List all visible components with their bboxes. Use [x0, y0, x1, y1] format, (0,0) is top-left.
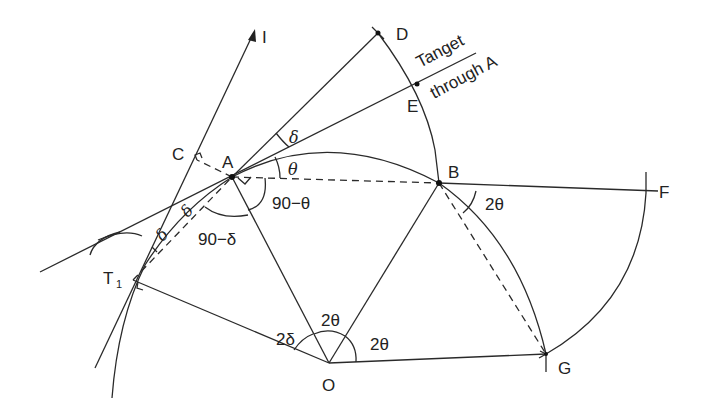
label-f: F [659, 183, 669, 202]
angle-arc-delta-top [276, 133, 289, 147]
label-2theta-b: 2θ [485, 195, 504, 214]
label-2theta-o: 2θ [321, 311, 340, 330]
line-a-to-d [232, 33, 378, 177]
arc-f-g [546, 193, 646, 354]
line-t1-to-i [95, 34, 253, 368]
label-d: D [396, 25, 408, 44]
radius-o-t1 [133, 280, 329, 363]
angle-arc-2theta-b [463, 191, 476, 213]
curve-arc [112, 152, 546, 398]
geometry-diagram: A B C D E F G O I T 1 Tanget through A δ… [0, 0, 703, 407]
label-delta-left2: δ [177, 201, 198, 221]
chord-t1-a [133, 177, 232, 280]
tangent-through-a [40, 53, 476, 272]
angle-arc-90-theta [248, 178, 265, 210]
label-c: C [172, 145, 184, 164]
tangent-label-line1: Tanget [413, 31, 467, 72]
label-t1-subscript: 1 [116, 278, 122, 290]
radius-o-g [329, 354, 546, 363]
construction-arc-1 [90, 232, 120, 255]
angle-arc-2theta-o [314, 331, 345, 336]
right-angle-c [195, 153, 202, 160]
chord-a-b [232, 177, 439, 183]
label-delta-top: δ [289, 128, 299, 147]
angle-arc-2delta-o [294, 334, 313, 350]
label-g: G [558, 359, 571, 378]
point-e [415, 82, 420, 87]
label-o: O [322, 376, 335, 395]
label-e: E [407, 97, 418, 116]
angle-arc-90-delta [205, 207, 248, 216]
label-t1: T [103, 269, 113, 288]
line-b-to-f [439, 183, 658, 191]
label-2delta-o: 2δ [276, 330, 295, 349]
point-b [436, 180, 442, 186]
label-b: B [448, 163, 459, 182]
point-a [229, 174, 235, 180]
label-i: I [262, 28, 267, 47]
point-g [544, 352, 548, 356]
angle-arc-theta-a [275, 157, 280, 178]
label-90-minus-delta: 90−δ [198, 230, 236, 249]
label-90-minus-theta: 90−θ [272, 194, 310, 213]
angle-arc-2theta-o2 [345, 336, 356, 362]
label-a: A [222, 153, 234, 172]
arrow-head-icon [248, 29, 256, 42]
label-theta-a: θ [288, 160, 298, 179]
point-d [376, 31, 381, 36]
label-2theta-o2: 2θ [370, 335, 389, 354]
